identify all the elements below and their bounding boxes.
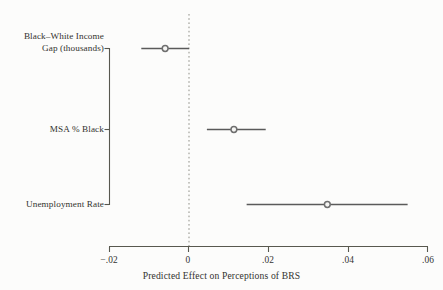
y-category-label-1-line1: Black–White Income bbox=[24, 31, 104, 41]
y-category-label-3: Unemployment Rate bbox=[0, 199, 104, 210]
coefficient-plot: Black–White IncomeGap (thousands) MSA % … bbox=[0, 0, 443, 290]
point-estimate-row1 bbox=[162, 46, 168, 52]
point-estimate-row2 bbox=[231, 127, 237, 133]
y-category-label-1: Black–White IncomeGap (thousands) bbox=[0, 31, 104, 54]
x-tick-label-2: .02 bbox=[246, 255, 290, 266]
x-tick-label-4: .06 bbox=[406, 255, 443, 266]
ci-bar-group-1 bbox=[141, 46, 189, 52]
y-category-label-1-line2: Gap (thousands) bbox=[42, 43, 104, 53]
x-axis-title: Predicted Effect on Perceptions of BRS bbox=[0, 270, 443, 281]
ci-bar-group-3 bbox=[247, 202, 408, 208]
point-estimate-row3 bbox=[324, 202, 330, 208]
x-tick-label-0: −.02 bbox=[87, 255, 131, 266]
x-tick-label-1: 0 bbox=[166, 255, 210, 266]
y-category-label-2: MSA % Black bbox=[0, 124, 104, 135]
x-tick-label-3: .04 bbox=[326, 255, 370, 266]
ci-bar-group-2 bbox=[207, 127, 266, 133]
